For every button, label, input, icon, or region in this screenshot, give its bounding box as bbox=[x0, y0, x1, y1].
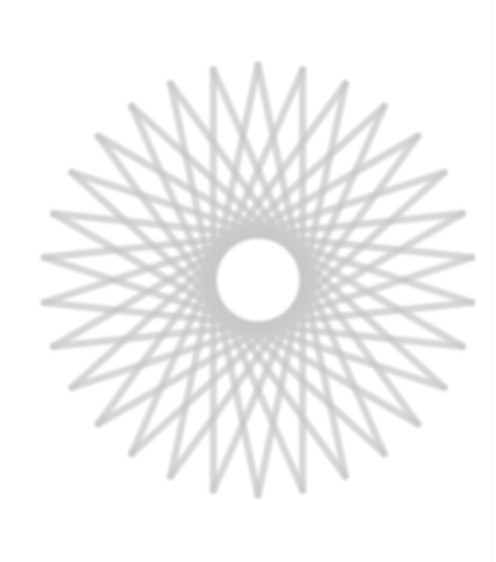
spirograph-star-figure bbox=[0, 0, 496, 562]
